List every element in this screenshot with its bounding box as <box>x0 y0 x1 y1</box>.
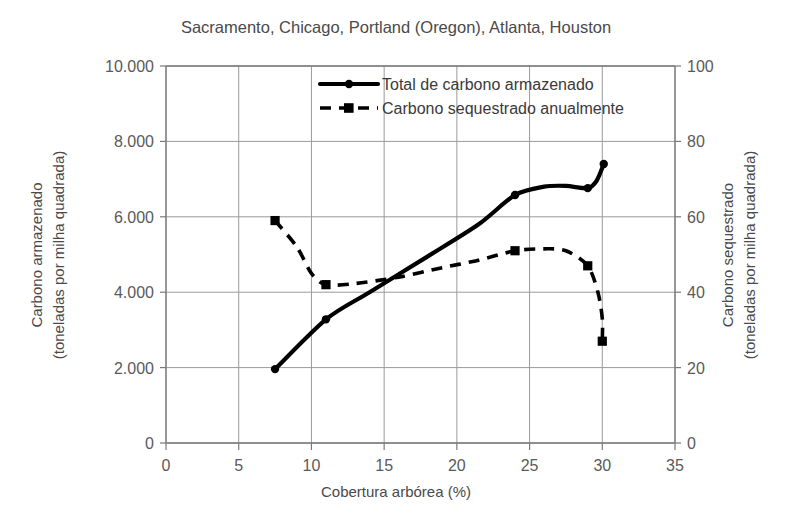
data-point-marker-square <box>321 280 330 289</box>
x-tick-label: 0 <box>162 457 171 474</box>
data-point-marker-square <box>583 261 592 270</box>
x-tick-label: 25 <box>521 457 539 474</box>
y-tick-label: 0 <box>145 435 154 452</box>
x-tick-label: 15 <box>375 457 393 474</box>
y2-tick-label: 100 <box>687 58 714 75</box>
y-tick-label: 4.000 <box>114 284 154 301</box>
x-tick-label: 30 <box>593 457 611 474</box>
data-point-marker-circle <box>322 315 330 323</box>
chart-figure: Sacramento, Chicago, Portland (Oregon), … <box>0 0 793 519</box>
chart-title: Sacramento, Chicago, Portland (Oregon), … <box>181 18 611 36</box>
y2-tick-label: 20 <box>687 360 705 377</box>
legend-label: Total de carbono armazenado <box>382 76 594 93</box>
y2-axis-title-units: (toneladas por milha quadrada) <box>741 151 758 359</box>
legend-marker-circle <box>345 80 353 88</box>
data-point-marker-circle <box>600 160 608 168</box>
data-point-marker-square <box>270 216 279 225</box>
x-tick-label: 20 <box>448 457 466 474</box>
x-tick-label: 5 <box>234 457 243 474</box>
x-axis-title: Cobertura arbórea (%) <box>321 483 471 500</box>
legend-label: Carbono sequestrado anualmente <box>382 100 624 117</box>
y-tick-label: 8.000 <box>114 133 154 150</box>
data-point-marker-square <box>598 337 607 346</box>
line-chart: Sacramento, Chicago, Portland (Oregon), … <box>0 0 793 519</box>
y2-axis-title: Carbono sequestrado <box>719 183 736 327</box>
data-point-marker-circle <box>511 191 519 199</box>
data-point-marker-circle <box>584 184 592 192</box>
y2-tick-label: 60 <box>687 209 705 226</box>
y2-tick-label: 80 <box>687 133 705 150</box>
y-tick-label: 6.000 <box>114 209 154 226</box>
y-tick-label: 10.000 <box>105 58 154 75</box>
y2-tick-label: 0 <box>687 435 696 452</box>
x-tick-label: 10 <box>303 457 321 474</box>
x-tick-label: 35 <box>666 457 684 474</box>
legend-marker-square <box>344 103 354 113</box>
y-axis-title: Carbono armazenado <box>28 182 45 327</box>
data-point-marker-circle <box>271 365 279 373</box>
y-tick-label: 2.000 <box>114 360 154 377</box>
y-axis-title-units: (toneladas por milha quadrada) <box>50 151 67 359</box>
y2-tick-label: 40 <box>687 284 705 301</box>
data-point-marker-square <box>510 246 519 255</box>
